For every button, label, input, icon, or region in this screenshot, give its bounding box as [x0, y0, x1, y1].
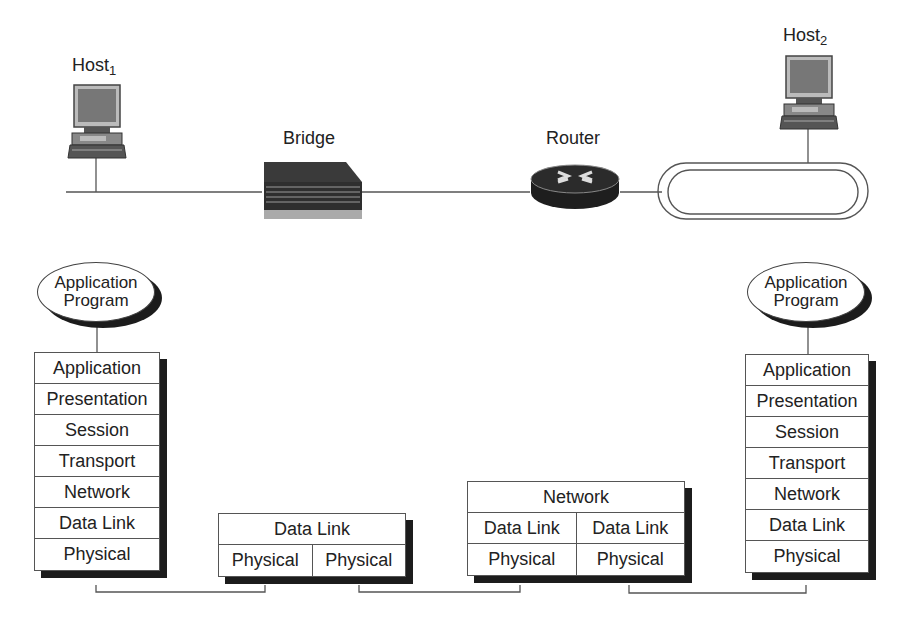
- left-osi-stack: Application Presentation Session Transpo…: [34, 352, 160, 571]
- right-layer-physical: Physical: [746, 541, 868, 572]
- left-application-program: Application Program: [37, 262, 155, 322]
- router-layer-physical-right: Physical: [576, 544, 685, 575]
- router-device-icon: [528, 163, 622, 211]
- left-layer-transport: Transport: [35, 446, 159, 477]
- right-layer-network: Network: [746, 479, 868, 510]
- left-app-line1: Application: [54, 274, 137, 292]
- left-layer-presentation: Presentation: [35, 384, 159, 415]
- left-layer-session: Session: [35, 415, 159, 446]
- router-layer-network: Network: [468, 482, 684, 513]
- left-layer-physical: Physical: [35, 539, 159, 570]
- host2-computer-icon: [778, 55, 840, 131]
- left-app-line2: Program: [63, 292, 128, 310]
- host1-label: Host1: [72, 55, 116, 78]
- left-layer-network: Network: [35, 477, 159, 508]
- left-layer-data-link: Data Link: [35, 508, 159, 539]
- bridge-layer-data-link: Data Link: [219, 514, 405, 545]
- right-layer-presentation: Presentation: [746, 386, 868, 417]
- router-layer-data-link-right: Data Link: [576, 513, 685, 543]
- right-layer-data-link: Data Link: [746, 510, 868, 541]
- bridge-stack: Data Link Physical Physical: [218, 513, 406, 577]
- host2-label: Host2: [783, 25, 827, 48]
- bridge-layer-physical-right: Physical: [312, 545, 406, 576]
- router-layer-data-link-left: Data Link: [468, 513, 576, 543]
- right-app-line1: Application: [764, 274, 847, 292]
- host1-computer-icon: [66, 84, 128, 160]
- right-osi-stack: Application Presentation Session Transpo…: [745, 354, 869, 573]
- router-layer-physical-left: Physical: [468, 544, 576, 575]
- bridge-device-icon: [260, 160, 366, 222]
- bridge-layer-physical-left: Physical: [219, 545, 312, 576]
- right-layer-session: Session: [746, 417, 868, 448]
- right-layer-application: Application: [746, 355, 868, 386]
- router-label: Router: [546, 128, 600, 149]
- right-application-program: Application Program: [747, 262, 865, 322]
- right-app-line2: Program: [773, 292, 838, 310]
- router-stack: Network Data Link Data Link Physical Phy…: [467, 481, 685, 576]
- bridge-label: Bridge: [283, 128, 335, 149]
- right-layer-transport: Transport: [746, 448, 868, 479]
- left-layer-application: Application: [35, 353, 159, 384]
